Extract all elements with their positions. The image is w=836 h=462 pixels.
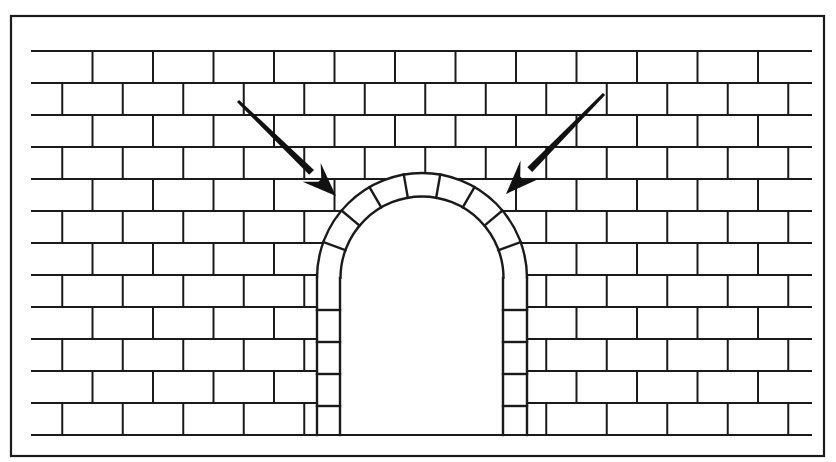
canvas-background xyxy=(0,0,836,462)
figure-root: Masonry wall with semicircular arched op… xyxy=(0,0,836,462)
masonry-arch-diagram: Masonry wall with semicircular arched op… xyxy=(0,0,836,462)
